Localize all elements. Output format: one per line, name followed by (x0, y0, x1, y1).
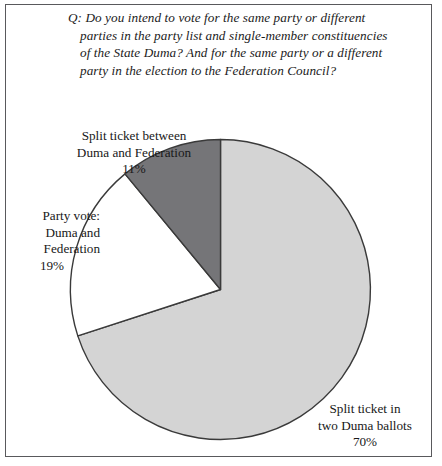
label-split-ticket-duma-federation-percent: 11% (36, 161, 232, 177)
label-two-duma-ballots: Split ticket in two Duma ballots 70% (300, 385, 430, 466)
label-party-vote-text: Party vote: Duma and Federation (42, 208, 100, 256)
label-split-ticket-duma-federation: Split ticket between Duma and Federation… (36, 112, 232, 194)
pie-chart-figure: Q: Do you intend to vote for the same pa… (0, 0, 442, 466)
label-split-ticket-duma-federation-text: Split ticket between Duma and Federation (77, 128, 191, 159)
label-party-vote: Party vote: Duma and Federation 19% (8, 192, 100, 290)
label-two-duma-ballots-percent: 70% (300, 434, 430, 450)
label-two-duma-ballots-text: Split ticket in two Duma ballots (318, 401, 412, 432)
label-party-vote-percent: 19% (8, 258, 100, 274)
